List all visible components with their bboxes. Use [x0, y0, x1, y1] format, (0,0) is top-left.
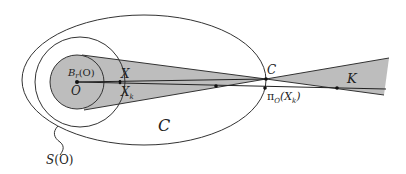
label-x: X [120, 67, 130, 81]
point-c [264, 77, 268, 81]
label-region-c: C [158, 116, 170, 135]
point-mid [214, 84, 218, 88]
label-c-point: C [267, 63, 276, 77]
sphere-leader-curve [54, 126, 63, 155]
label-sphere: S(O) [46, 153, 73, 167]
geometry-diagram: Br(O) O X Xk C πO(Xk) K C S(O) [0, 0, 406, 174]
point-xk [119, 82, 122, 85]
label-origin: O [71, 84, 81, 98]
label-cone-k: K [346, 71, 358, 86]
label-projection: πO(Xk) [267, 90, 301, 105]
point-right [335, 86, 339, 90]
